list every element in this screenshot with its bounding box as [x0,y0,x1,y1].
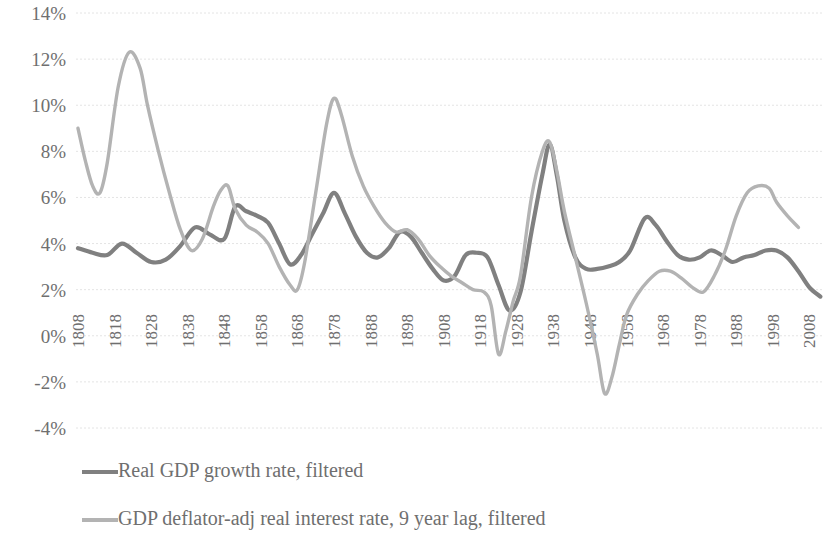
x-axis-tick-label: 1928 [508,314,527,348]
legend-label-1: Real GDP growth rate, filtered [118,459,363,482]
y-axis-tick-label: 14% [31,3,66,24]
chart-container: 14%12%10%8%6%4%2%0%-2%-4% 18081818182818… [0,0,830,535]
y-axis-tick-label: 4% [41,234,67,255]
x-axis-tick-label: 1858 [252,314,271,348]
gridlines-group [76,13,824,428]
x-axis-tick-label: 1838 [179,314,198,348]
y-axis-tick-label: 0% [41,326,67,347]
x-axis-tick-label: 1878 [325,314,344,348]
x-axis-tick-label: 1898 [398,314,417,348]
legend: Real GDP growth rate, filteredGDP deflat… [82,459,546,530]
x-axis-tick-label: 1828 [142,314,161,348]
x-axis-tick-label: 1938 [544,314,563,348]
x-axis-tick-label: 1978 [691,314,710,348]
y-axis-tick-label: 6% [41,187,67,208]
x-axis-tick-label: 1908 [435,314,454,348]
y-axis-tick-label: 12% [31,49,66,70]
line-chart: 14%12%10%8%6%4%2%0%-2%-4% 18081818182818… [0,0,830,535]
x-axis-tick-label: 1988 [727,314,746,348]
x-axis-tick-label: 1848 [215,314,234,348]
y-axis-tick-label: 10% [31,95,66,116]
x-axis-tick-label: 1868 [288,314,307,348]
y-axis-tick-label: 2% [41,280,67,301]
x-axis-tick-label: 1968 [654,314,673,348]
y-axis-tick-label: 8% [41,141,67,162]
x-axis-tick-label: 1888 [362,314,381,348]
y-axis-labels-group: 14%12%10%8%6%4%2%0%-2%-4% [31,3,66,439]
y-axis-tick-label: -4% [34,418,66,439]
x-axis-tick-label: 1998 [764,314,783,348]
x-axis-labels-group: 1808181818281838184818581868187818881898… [69,314,819,348]
y-axis-tick-label: -2% [34,372,66,393]
x-axis-tick-label: 1818 [106,314,125,348]
x-axis-tick-label: 1808 [69,314,88,348]
x-axis-tick-label: 1918 [471,314,490,348]
x-axis-tick-label: 2008 [800,314,819,348]
legend-label-2: GDP deflator-adj real interest rate, 9 y… [118,507,546,530]
